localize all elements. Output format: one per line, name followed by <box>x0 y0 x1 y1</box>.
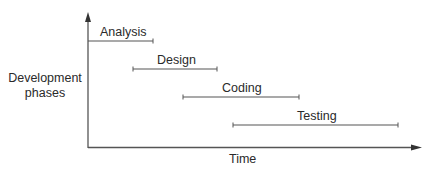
phase-label-design: Design <box>157 54 196 67</box>
y-axis-arrow-icon <box>85 12 91 22</box>
y-axis-label-line1: Development <box>2 71 88 86</box>
x-axis-arrow-icon <box>411 145 422 151</box>
phase-bar-analysis <box>88 39 153 44</box>
y-axis-label: Development phases <box>2 71 88 101</box>
phase-bar-design <box>133 67 217 72</box>
y-axis-label-line2: phases <box>2 86 88 101</box>
phase-label-testing: Testing <box>297 110 337 123</box>
phase-label-coding: Coding <box>222 82 262 95</box>
phase-label-analysis: Analysis <box>100 26 147 39</box>
phase-bar-testing <box>233 123 398 128</box>
phase-bar-coding <box>183 95 299 100</box>
x-axis-label: Time <box>229 153 256 166</box>
